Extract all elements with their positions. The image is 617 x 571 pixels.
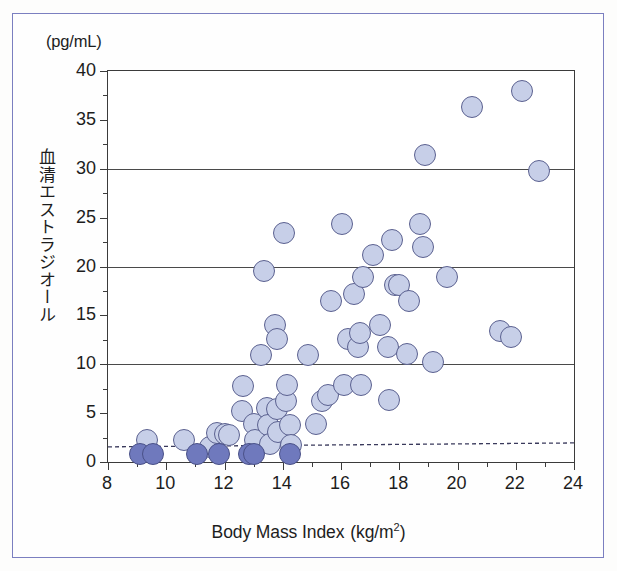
data-point xyxy=(273,222,295,244)
data-point xyxy=(350,374,372,396)
y-tick-20 xyxy=(100,267,108,268)
figure-root: (pg/mL) 血清エストラジオール Body Mass Index(kg/m2… xyxy=(0,0,617,571)
x-tick-minor-17 xyxy=(370,462,371,467)
data-point xyxy=(378,389,400,411)
data-point xyxy=(500,326,522,348)
x-tick-24 xyxy=(574,462,575,470)
x-tick-label-22: 22 xyxy=(495,473,535,494)
y-tick-label-25: 25 xyxy=(54,206,96,227)
data-point xyxy=(186,443,208,465)
y-tick-minor-37.5 xyxy=(103,95,108,96)
y-tick-35 xyxy=(100,120,108,121)
plot-area xyxy=(107,70,575,463)
x-tick-10 xyxy=(166,462,167,470)
gridline-y-20 xyxy=(108,267,574,268)
y-tick-0 xyxy=(100,462,108,463)
data-point xyxy=(352,266,374,288)
x-tick-label-24: 24 xyxy=(553,473,593,494)
y-tick-10 xyxy=(100,364,108,365)
x-tick-label-16: 16 xyxy=(320,473,360,494)
y-tick-minor-27.5 xyxy=(103,193,108,194)
y-tick-label-40: 40 xyxy=(54,60,96,81)
data-point xyxy=(381,229,403,251)
y-tick-label-35: 35 xyxy=(54,108,96,129)
data-point xyxy=(349,322,371,344)
y-tick-minor-2.5 xyxy=(103,438,108,439)
x-tick-minor-19 xyxy=(428,462,429,467)
data-point xyxy=(142,443,164,465)
y-tick-25 xyxy=(100,218,108,219)
data-point xyxy=(461,96,483,118)
y-tick-minor-32.5 xyxy=(103,144,108,145)
data-point xyxy=(362,244,384,266)
data-point xyxy=(412,236,434,258)
data-point xyxy=(276,374,298,396)
y-tick-minor-7.5 xyxy=(103,389,108,390)
x-tick-label-14: 14 xyxy=(262,473,302,494)
x-tick-minor-15 xyxy=(312,462,313,467)
x-tick-label-10: 10 xyxy=(145,473,185,494)
data-point xyxy=(414,144,436,166)
data-point xyxy=(320,290,342,312)
x-tick-22 xyxy=(516,462,517,470)
x-tick-8 xyxy=(108,462,109,470)
x-tick-label-8: 8 xyxy=(87,473,127,494)
data-point xyxy=(422,351,444,373)
x-axis-unit-pre: (kg/m xyxy=(350,522,393,542)
data-point xyxy=(232,375,254,397)
data-point xyxy=(398,290,420,312)
y-tick-label-20: 20 xyxy=(54,255,96,276)
y-tick-minor-12.5 xyxy=(103,340,108,341)
data-point xyxy=(331,213,353,235)
x-tick-18 xyxy=(399,462,400,470)
y-axis-title: 血清エストラジオール xyxy=(24,148,54,323)
x-axis-unit-post: ) xyxy=(400,522,406,542)
y-tick-40 xyxy=(100,71,108,72)
x-axis-title: Body Mass Index(kg/m2) xyxy=(0,521,617,543)
data-point xyxy=(208,443,230,465)
y-tick-5 xyxy=(100,413,108,414)
data-point xyxy=(266,328,288,350)
x-tick-label-12: 12 xyxy=(204,473,244,494)
x-axis-title-text: Body Mass Index xyxy=(212,522,345,542)
y-tick-label-0: 0 xyxy=(54,451,96,472)
y-axis-unit-label: (pg/mL) xyxy=(46,32,101,51)
data-point xyxy=(297,344,319,366)
y-tick-30 xyxy=(100,169,108,170)
x-axis-unit: (kg/m2) xyxy=(350,522,405,542)
data-point xyxy=(511,80,533,102)
data-point xyxy=(436,266,458,288)
y-tick-15 xyxy=(100,315,108,316)
x-tick-label-18: 18 xyxy=(378,473,418,494)
data-point xyxy=(250,344,272,366)
y-tick-label-5: 5 xyxy=(54,402,96,423)
y-tick-minor-17.5 xyxy=(103,291,108,292)
y-tick-label-15: 15 xyxy=(54,304,96,325)
x-tick-20 xyxy=(458,462,459,470)
y-tick-label-30: 30 xyxy=(54,157,96,178)
data-point xyxy=(279,443,301,465)
data-point xyxy=(396,343,418,365)
data-point xyxy=(305,413,327,435)
data-point xyxy=(369,314,391,336)
data-point xyxy=(243,443,265,465)
data-point xyxy=(253,260,275,282)
data-point xyxy=(279,414,301,436)
data-point xyxy=(409,213,431,235)
x-tick-minor-21 xyxy=(487,462,488,467)
y-tick-minor-22.5 xyxy=(103,242,108,243)
gridline-y-30 xyxy=(108,169,574,170)
x-tick-16 xyxy=(341,462,342,470)
x-tick-minor-23 xyxy=(545,462,546,467)
gridline-y-10 xyxy=(108,364,574,365)
data-point xyxy=(528,160,550,182)
y-tick-label-10: 10 xyxy=(54,353,96,374)
x-tick-label-20: 20 xyxy=(437,473,477,494)
